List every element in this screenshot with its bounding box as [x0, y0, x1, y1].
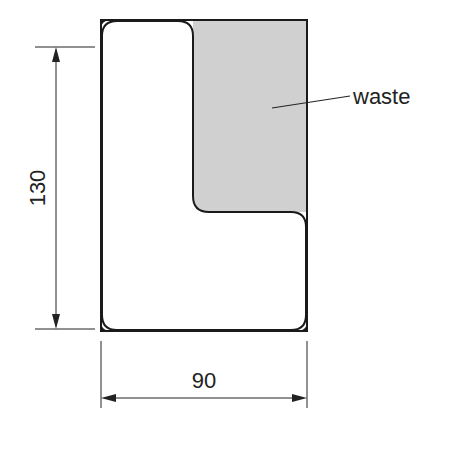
width-dimension-label: 90: [192, 368, 216, 393]
height-dimension-label: 130: [25, 170, 50, 207]
width-dimension: 90: [101, 341, 307, 408]
arrow-up-icon: [52, 47, 60, 62]
waste-label: waste: [352, 84, 410, 109]
waste-region: [193, 20, 307, 212]
height-dimension: 130: [25, 47, 95, 329]
arrow-left-icon: [101, 394, 116, 402]
cutting-diagram: waste 130 90: [0, 0, 452, 450]
arrow-down-icon: [52, 314, 60, 329]
arrow-right-icon: [292, 394, 307, 402]
